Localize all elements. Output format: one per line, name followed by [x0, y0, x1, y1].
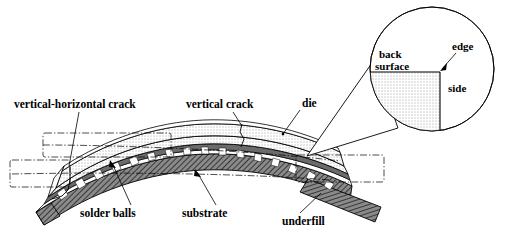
label-substrate: substrate	[182, 207, 227, 219]
label-underfill: underfill	[282, 215, 325, 227]
substrate-leader	[197, 172, 216, 205]
callout-side-label: side	[448, 82, 466, 94]
package-cross-section-diagram: back surface edge side vertical-horizon	[0, 0, 508, 241]
die-leader-dot	[282, 133, 285, 136]
label-solder-balls: solder balls	[80, 207, 136, 219]
label-die: die	[302, 97, 317, 109]
label-vertical-crack: vertical crack	[186, 98, 254, 110]
callout-back-surface-line2: surface	[375, 60, 409, 72]
callout-edge-label: edge	[452, 40, 474, 52]
callout-back-surface-line1: back	[379, 48, 403, 60]
figure-root: back surface edge side vertical-horizon	[0, 0, 508, 241]
magnifier-callout: back surface edge side	[307, 7, 494, 156]
label-vertical-horizontal-crack: vertical-horizontal crack	[14, 98, 136, 110]
